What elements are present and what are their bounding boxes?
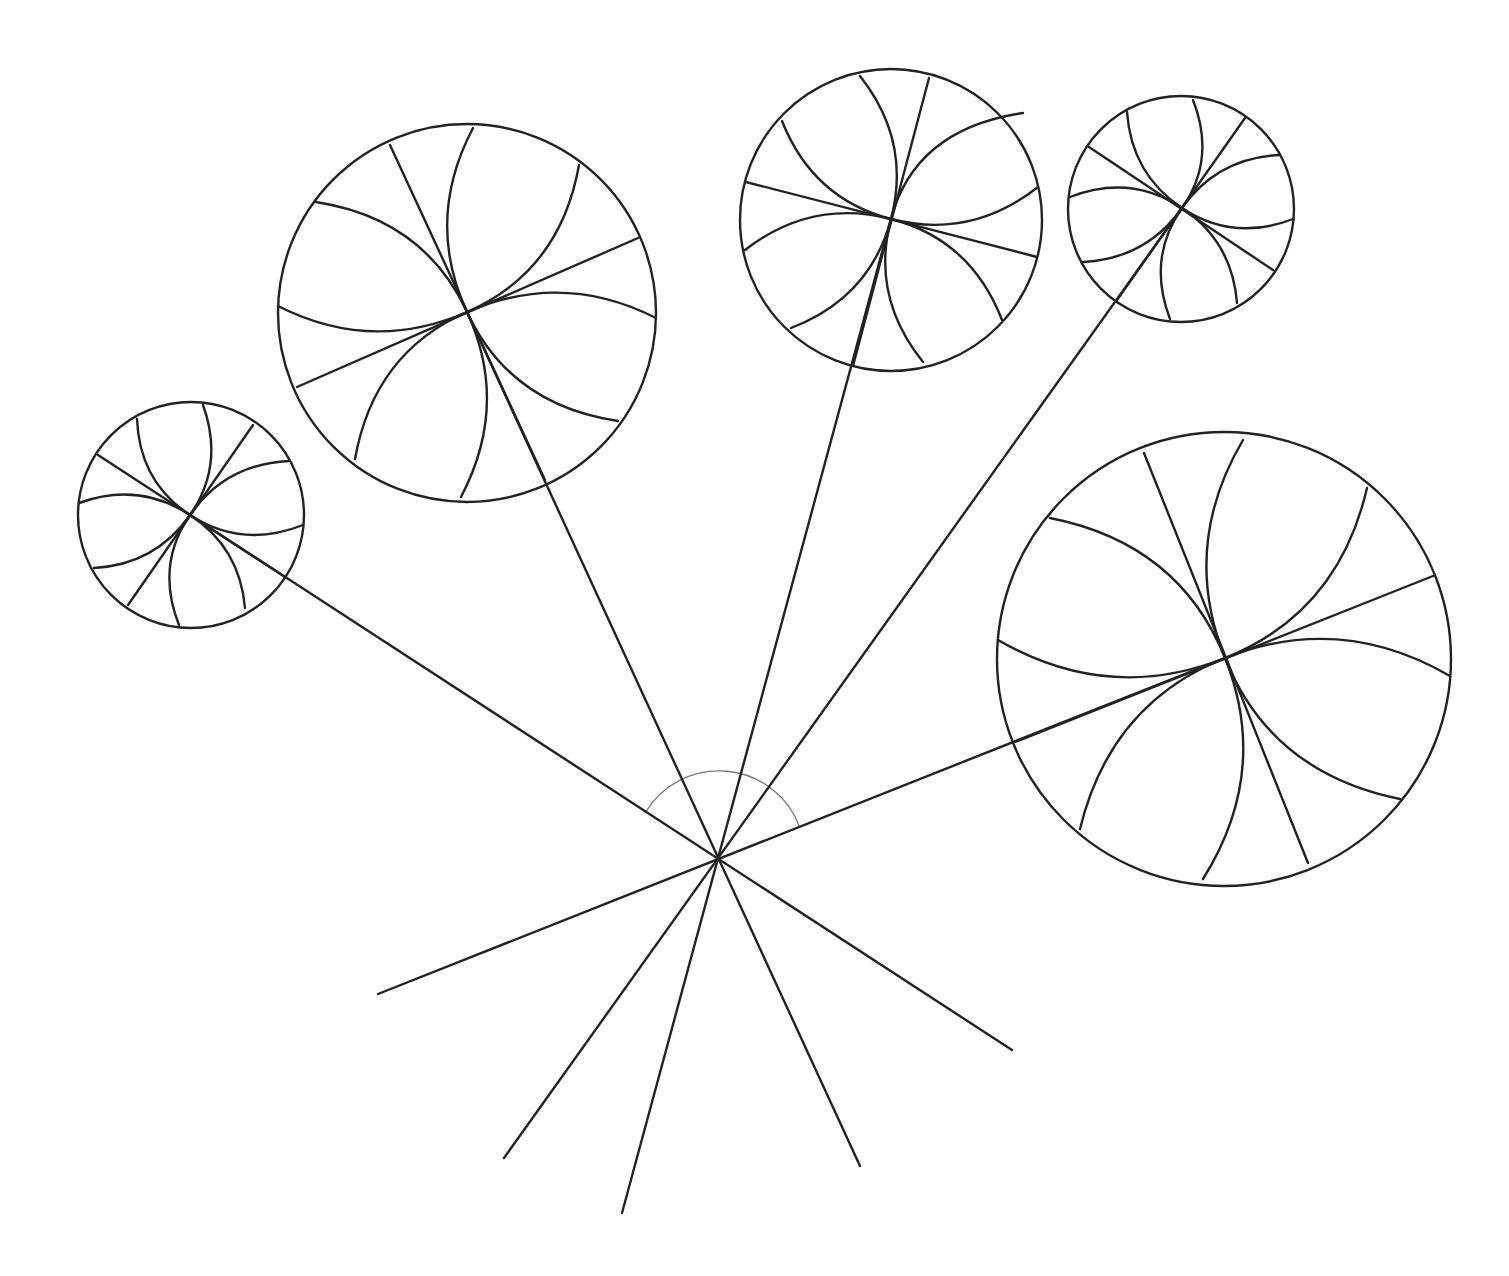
angle-arc <box>645 771 800 828</box>
hub-lines <box>190 208 1225 1213</box>
curved-chord <box>998 639 1450 677</box>
curved-chord <box>791 113 1023 328</box>
hub-line-to-circle-1 <box>190 515 1012 1050</box>
pinwheel-circle-4 <box>1068 96 1294 322</box>
curved-chord <box>1070 188 1293 229</box>
angle-arc-icon <box>645 771 800 828</box>
pinwheel-circle-5 <box>997 432 1451 886</box>
curved-chord <box>94 461 289 568</box>
pinwheel-circles <box>78 69 1451 886</box>
pinwheel-circle-2 <box>278 124 656 502</box>
pinwheel-circle-3 <box>740 69 1042 371</box>
curved-chord <box>745 187 1038 250</box>
curved-chord <box>79 495 303 535</box>
hub-line-to-circle-4 <box>504 208 1182 1158</box>
pinwheel-diagram <box>0 0 1509 1276</box>
hub-line-to-circle-3 <box>622 219 891 1213</box>
curved-chord <box>278 293 656 332</box>
pinwheel-circle-1 <box>78 402 304 628</box>
